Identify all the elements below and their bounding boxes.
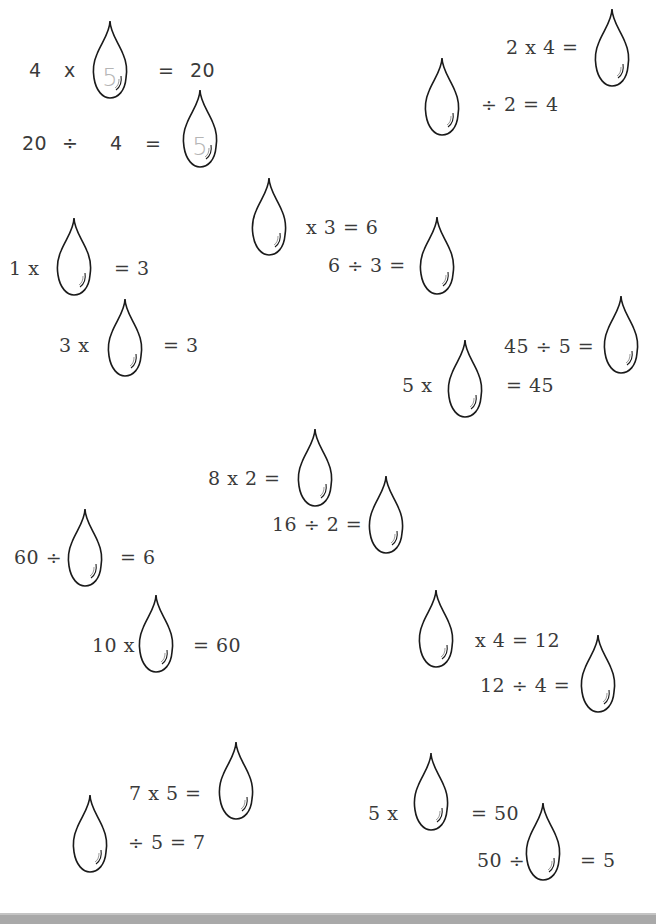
p16-answer-drop[interactable] bbox=[580, 634, 616, 714]
p2-equals: = bbox=[145, 134, 161, 153]
p3-answer-drop[interactable] bbox=[594, 8, 630, 88]
p2-answer-drop[interactable]: 5 bbox=[182, 89, 218, 169]
p5-equation: x 3 = 6 bbox=[306, 218, 378, 237]
p2-operator: ÷ bbox=[62, 134, 78, 153]
p14-left: 10 x bbox=[92, 636, 135, 655]
p16-equation: 12 ÷ 4 = bbox=[480, 676, 570, 695]
p4-answer-drop[interactable] bbox=[424, 57, 460, 137]
p1-answer-drop[interactable]: 5 bbox=[92, 20, 128, 100]
p9-equation: 45 ÷ 5 = bbox=[504, 337, 594, 356]
p12-answer-drop[interactable] bbox=[368, 475, 404, 555]
p2-operand-a: 20 bbox=[22, 134, 47, 153]
p13-left: 60 ÷ bbox=[14, 548, 62, 567]
p15-answer-drop[interactable] bbox=[418, 589, 454, 669]
p14-right: = 60 bbox=[193, 636, 241, 655]
p20-left: 50 ÷ bbox=[477, 851, 525, 870]
p8-left: 3 x bbox=[59, 336, 89, 355]
p14-answer-drop[interactable] bbox=[138, 594, 174, 674]
p1-operator: x bbox=[64, 61, 76, 80]
p1-operand-a: 4 bbox=[29, 61, 42, 80]
p19-right: = 50 bbox=[471, 804, 519, 823]
p6-equation: 6 ÷ 3 = bbox=[328, 256, 406, 275]
p10-left: 5 x bbox=[402, 376, 432, 395]
p8-answer-drop[interactable] bbox=[107, 298, 143, 378]
p7-right: = 3 bbox=[114, 259, 150, 278]
p15-equation: x 4 = 12 bbox=[475, 631, 560, 650]
p20-right: = 5 bbox=[580, 851, 616, 870]
p13-answer-drop[interactable] bbox=[67, 508, 103, 588]
p7-answer-drop[interactable] bbox=[56, 217, 92, 297]
p11-answer-drop[interactable] bbox=[297, 428, 333, 508]
bottom-bar bbox=[0, 913, 656, 924]
p17-equation: 7 x 5 = bbox=[129, 784, 201, 803]
p5-answer-drop[interactable] bbox=[251, 177, 287, 257]
p20-answer-drop[interactable] bbox=[525, 802, 561, 882]
p13-right: = 6 bbox=[120, 548, 156, 567]
p18-equation: ÷ 5 = 7 bbox=[128, 833, 206, 852]
p1-equals: = bbox=[158, 61, 174, 80]
p11-equation: 8 x 2 = bbox=[208, 469, 280, 488]
p1-answer-hint: 5 bbox=[92, 64, 128, 92]
p9-answer-drop[interactable] bbox=[603, 295, 639, 375]
p10-right: = 45 bbox=[506, 376, 554, 395]
p7-left: 1 x bbox=[9, 259, 39, 278]
p18-answer-drop[interactable] bbox=[72, 794, 108, 874]
p17-answer-drop[interactable] bbox=[218, 741, 254, 821]
p19-left: 5 x bbox=[368, 804, 398, 823]
p4-equation: ÷ 2 = 4 bbox=[481, 95, 559, 114]
p2-operand-b: 4 bbox=[110, 134, 123, 153]
p3-equation: 2 x 4 = bbox=[506, 38, 578, 57]
p1-result: 20 bbox=[190, 61, 215, 80]
p6-answer-drop[interactable] bbox=[419, 216, 455, 296]
p2-answer-hint: 5 bbox=[182, 133, 218, 161]
p19-answer-drop[interactable] bbox=[413, 752, 449, 832]
p8-right: = 3 bbox=[163, 336, 199, 355]
p10-answer-drop[interactable] bbox=[447, 339, 483, 419]
p12-equation: 16 ÷ 2 = bbox=[272, 515, 362, 534]
